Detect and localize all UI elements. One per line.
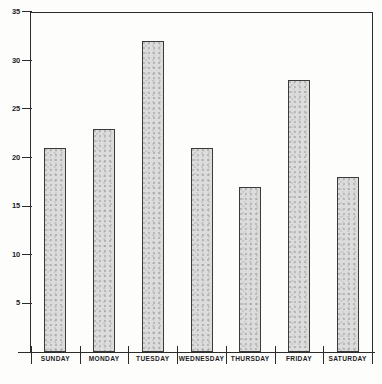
x-axis-label-saturday: SATURDAY xyxy=(323,355,372,362)
bar-saturday xyxy=(337,177,359,352)
bar-friday xyxy=(288,80,310,352)
x-axis-baseline xyxy=(18,352,375,353)
x-axis-separator xyxy=(372,346,373,364)
x-axis-label-monday: MONDAY xyxy=(80,355,129,362)
bar-thursday xyxy=(239,187,261,352)
bars-layer xyxy=(0,0,382,384)
x-axis-label-friday: FRIDAY xyxy=(275,355,324,362)
x-axis-label-sunday: SUNDAY xyxy=(31,355,80,362)
bar-sunday xyxy=(44,148,66,352)
bar-wednesday xyxy=(191,148,213,352)
x-axis-label-thursday: THURSDAY xyxy=(226,355,275,362)
bar-tuesday xyxy=(142,41,164,352)
bar-chart: 5101520253035 SUNDAYMONDAYTUESDAYWEDNESD… xyxy=(0,0,382,384)
bar-monday xyxy=(93,129,115,352)
x-axis-label-tuesday: TUESDAY xyxy=(128,355,177,362)
x-axis-label-wednesday: WEDNESDAY xyxy=(177,355,226,362)
